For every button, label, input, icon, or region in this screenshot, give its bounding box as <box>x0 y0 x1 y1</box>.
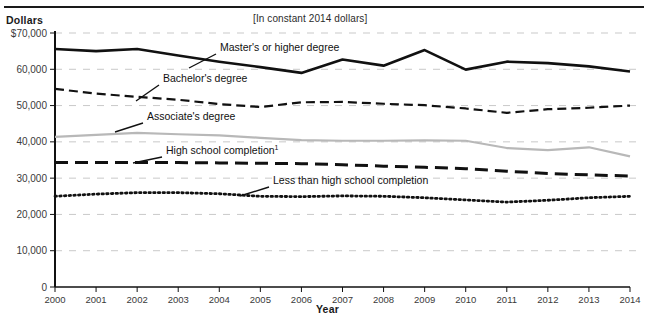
x-tick-label: 2014 <box>619 294 640 305</box>
y-tick-label: 60,000 <box>16 64 47 75</box>
x-tick-label: 2012 <box>537 294 558 305</box>
x-axis-ticks-group: 2000200120022003200420052006200720082009… <box>44 287 640 305</box>
x-tick-label: 2004 <box>209 294 230 305</box>
y-tick-label: 50,000 <box>16 100 47 111</box>
x-tick-label: 2008 <box>373 294 394 305</box>
bachelors-label: Bachelor's degree <box>163 72 247 84</box>
y-tick-label: 20,000 <box>16 209 47 220</box>
lessthanhs-label-leader <box>240 187 269 196</box>
plot-area: 010,00020,00030,00040,00050,00060,000$70… <box>0 0 648 321</box>
x-tick-label: 2013 <box>578 294 599 305</box>
associates-label-leader <box>115 123 143 132</box>
y-tick-label: 0 <box>41 282 47 293</box>
lessthanhs-label: Less than high school completion <box>273 174 428 186</box>
x-tick-label: 2002 <box>127 294 148 305</box>
chart-figure: Dollars [In constant 2014 dollars] Year … <box>0 0 648 321</box>
y-tick-label: 10,000 <box>16 245 47 256</box>
series-line <box>55 193 630 202</box>
series-line <box>55 89 630 113</box>
highschool-label-footnote-marker: 1 <box>275 144 279 151</box>
y-axis-ticks-group: 010,00020,00030,00040,00050,00060,000$70… <box>11 28 55 293</box>
y-tick-label: 40,000 <box>16 136 47 147</box>
x-tick-label: 2001 <box>86 294 107 305</box>
highschool-label: High school completion1 <box>166 144 279 156</box>
y-tick-label: $70,000 <box>11 28 48 39</box>
x-tick-label: 2010 <box>455 294 476 305</box>
series-line <box>55 133 630 157</box>
x-tick-label: 2003 <box>168 294 189 305</box>
y-tick-label: 30,000 <box>16 173 47 184</box>
x-tick-label: 2005 <box>250 294 271 305</box>
x-tick-label: 2009 <box>414 294 435 305</box>
x-tick-label: 2007 <box>332 294 353 305</box>
x-tick-label: 2006 <box>291 294 312 305</box>
associates-label: Associate's degree <box>147 110 236 122</box>
x-tick-label: 2011 <box>497 294 517 305</box>
masters-label: Master's or higher degree <box>220 41 339 53</box>
x-tick-label: 2000 <box>44 294 65 305</box>
